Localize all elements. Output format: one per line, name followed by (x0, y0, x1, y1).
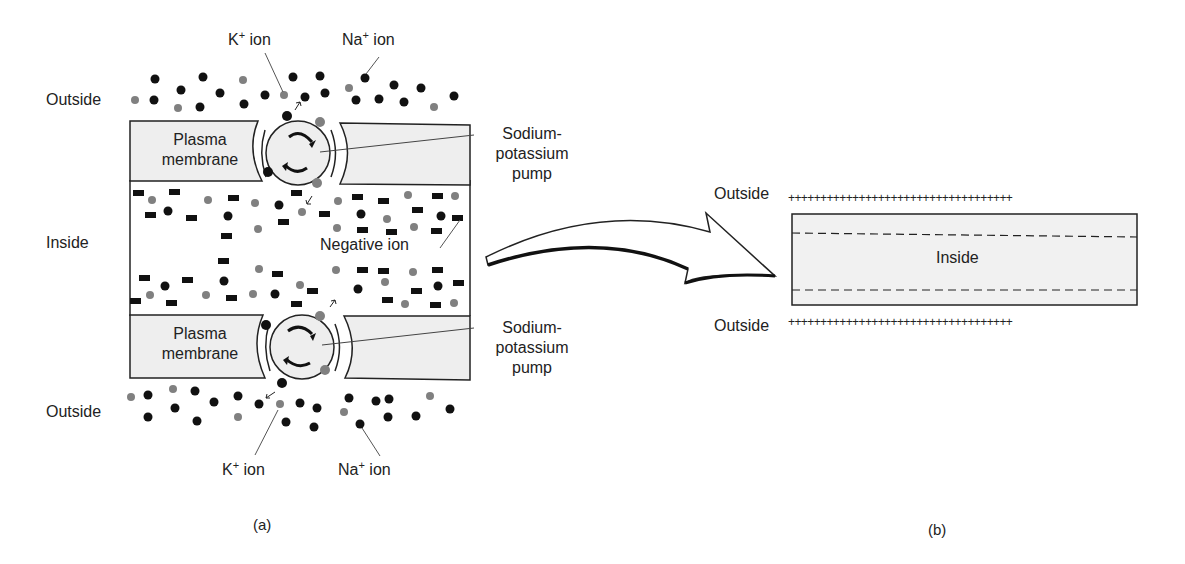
plus-charges-top: +++++++++++++++++++++++++++++++++++ (788, 192, 1012, 204)
pump-bottom-line1: Sodium- (478, 318, 586, 338)
label-plasma-membrane-bottom: Plasma membrane (152, 324, 248, 364)
label-b-outside-bottom: Outside (714, 318, 769, 334)
membrane-bottom-line1: Plasma (152, 324, 248, 344)
label-na-ion-top: Na+ ion (342, 32, 395, 48)
membrane-bottom-line2: membrane (152, 344, 248, 364)
label-outside-bottom: Outside (46, 404, 101, 420)
label-b-inside: Inside (936, 250, 979, 266)
pump-top-line1: Sodium- (478, 124, 586, 144)
outside-ions-top (131, 53, 459, 112)
label-b-outside-top: Outside (714, 186, 769, 202)
label-na-ion-bottom: Na+ ion (338, 462, 391, 478)
pump-bottom-line2: potassium (478, 338, 586, 358)
label-inside: Inside (46, 235, 89, 251)
membrane-top-line1: Plasma (152, 130, 248, 150)
pump-bottom-line3: pump (478, 358, 586, 378)
membrane-top-line2: membrane (152, 150, 248, 170)
plus-charges-bottom: +++++++++++++++++++++++++++++++++++ (788, 316, 1012, 328)
label-plasma-membrane-top: Plasma membrane (152, 130, 248, 170)
transition-arrow-icon (486, 213, 775, 283)
label-k-ion-top: K+ ion (228, 32, 271, 48)
label-outside-top: Outside (46, 92, 101, 108)
caption-a: (a) (253, 517, 271, 532)
caption-b: (b) (928, 522, 946, 537)
pump-top-line2: potassium (478, 144, 586, 164)
inside-ions (130, 189, 464, 308)
label-pump-bottom: Sodium- potassium pump (478, 318, 586, 378)
pump-top-line3: pump (478, 164, 586, 184)
panel-a-diagram (0, 0, 1185, 564)
label-k-ion-bottom: K+ ion (222, 462, 265, 478)
label-negative-ion: Negative ion (318, 237, 411, 253)
label-pump-top: Sodium- potassium pump (478, 124, 586, 184)
outside-ions-bottom (127, 385, 455, 456)
